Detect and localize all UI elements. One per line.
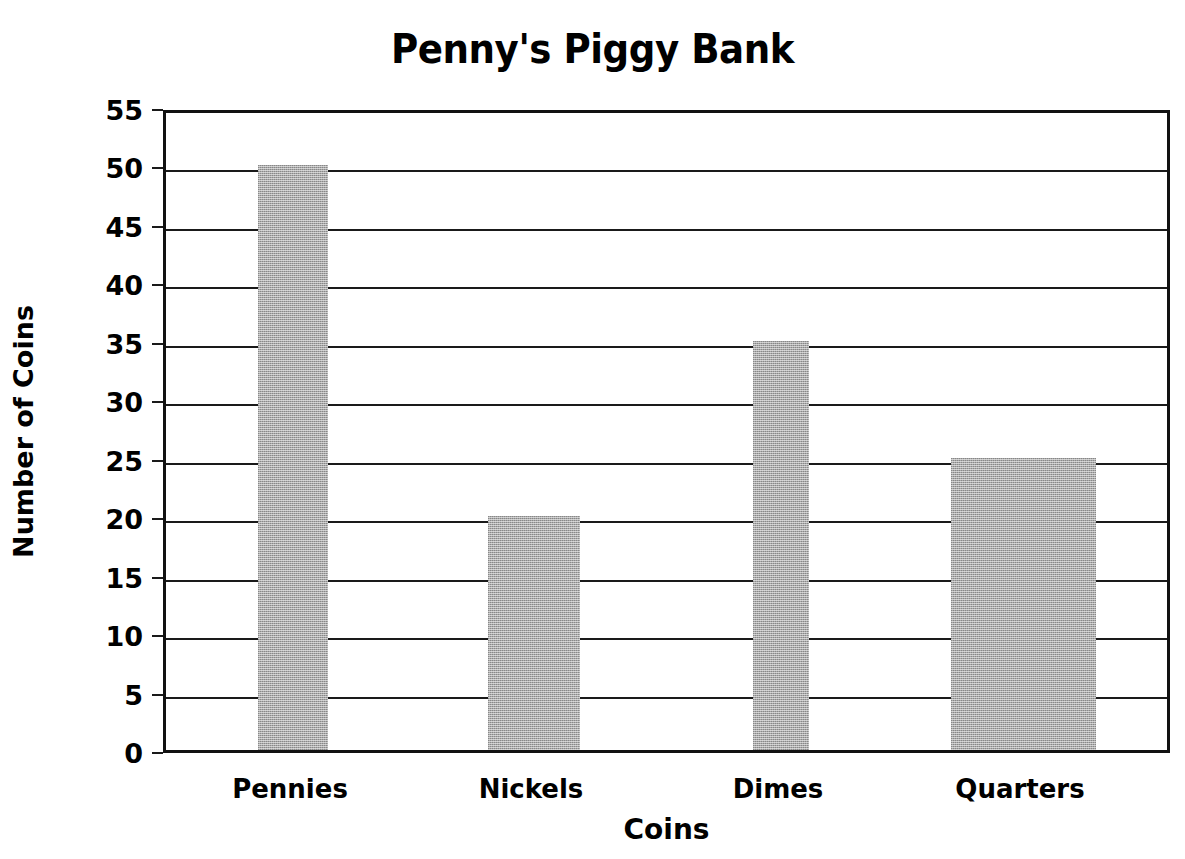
y-axis-tick-label: 20 bbox=[55, 506, 143, 533]
y-axis-tick-mark bbox=[152, 226, 163, 228]
bar-pennies bbox=[258, 165, 328, 750]
plot-area bbox=[163, 110, 1170, 753]
y-axis-title-text: Number of Coins bbox=[8, 305, 39, 558]
y-axis-tick-mark bbox=[152, 577, 163, 579]
y-axis-tick-mark bbox=[152, 343, 163, 345]
y-axis-tick-mark bbox=[152, 635, 163, 637]
x-axis-tick-label-pennies: Pennies bbox=[232, 775, 348, 805]
x-axis-tick-label-quarters: Quarters bbox=[955, 775, 1084, 805]
bar-nickels bbox=[488, 516, 580, 750]
x-axis-title: Coins bbox=[163, 813, 1170, 846]
y-axis-tick-mark bbox=[152, 109, 163, 111]
y-axis-tick-mark bbox=[152, 518, 163, 520]
x-axis-tick-label-nickels: Nickels bbox=[479, 775, 584, 805]
y-axis-tick-label: 45 bbox=[55, 213, 143, 240]
chart-page: Penny's Piggy Bank Number of Coins 05101… bbox=[0, 0, 1185, 859]
y-axis-tick-label: 25 bbox=[55, 447, 143, 474]
y-axis-tick-mark bbox=[152, 167, 163, 169]
y-axis-tick-mark bbox=[152, 284, 163, 286]
y-axis-tick-label: 35 bbox=[55, 330, 143, 357]
x-axis-tick-label-dimes: Dimes bbox=[733, 775, 824, 805]
y-axis-tick-label: 5 bbox=[55, 681, 143, 708]
y-axis-tick-mark bbox=[152, 694, 163, 696]
bar-quarters bbox=[951, 458, 1096, 750]
y-axis-tick-label: 40 bbox=[55, 272, 143, 299]
chart-title: Penny's Piggy Bank bbox=[41, 26, 1143, 72]
y-axis-title: Number of Coins bbox=[0, 110, 46, 753]
y-axis-tick-label: 15 bbox=[55, 564, 143, 591]
y-axis-tick-labels: 0510152025303540455055 bbox=[55, 0, 143, 859]
bar-dimes bbox=[753, 341, 809, 750]
y-axis-tick-label: 50 bbox=[55, 155, 143, 182]
y-axis-tick-label: 30 bbox=[55, 389, 143, 416]
y-axis-tick-label: 10 bbox=[55, 623, 143, 650]
y-axis-tick-mark bbox=[152, 460, 163, 462]
y-axis-tick-mark bbox=[152, 401, 163, 403]
y-axis-tick-label: 0 bbox=[55, 740, 143, 767]
y-axis-tick-mark bbox=[152, 752, 163, 754]
plot-inner bbox=[166, 113, 1167, 750]
y-axis-tick-label: 55 bbox=[55, 97, 143, 124]
